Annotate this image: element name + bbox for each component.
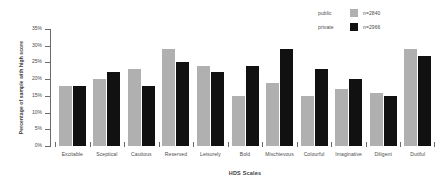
y-axis-tick: 0% xyxy=(45,146,51,147)
bar-private xyxy=(211,72,224,146)
y-axis-tick: 35% xyxy=(45,29,51,30)
x-axis-title: HDS Scales xyxy=(55,170,435,176)
x-axis-tick-label: Mischievous xyxy=(262,151,297,157)
bar-public xyxy=(370,93,383,146)
legend-item-public: public n=2840 xyxy=(318,7,438,18)
bar-private xyxy=(246,66,259,146)
bar-private xyxy=(107,72,120,146)
bar-group xyxy=(90,29,125,146)
y-axis-tick-label: 20% xyxy=(32,75,42,81)
y-axis-title: Percentage of sample with high score xyxy=(18,29,28,146)
x-axis-tick-label: Sceptical xyxy=(90,151,125,157)
bar-private xyxy=(315,69,328,146)
bar-group xyxy=(159,29,194,146)
bar-public xyxy=(128,69,141,146)
x-axis-group-separator xyxy=(297,142,298,147)
bar-private xyxy=(176,62,189,146)
legend-swatch-public-icon xyxy=(350,9,358,17)
bar-public xyxy=(59,86,72,146)
plot-area: 0%5%10%15%20%25%30%35% xyxy=(55,29,435,146)
x-axis-group-separator xyxy=(90,142,91,147)
y-axis-tick-label: 5% xyxy=(35,125,42,131)
x-axis-tick-label: Reserved xyxy=(159,151,194,157)
x-axis-tick-label: Colourful xyxy=(297,151,332,157)
legend-n-public: n=2840 xyxy=(363,10,380,16)
x-axis-group-separator xyxy=(159,142,160,147)
bar-private xyxy=(418,56,431,146)
y-axis-tick: 20% xyxy=(45,79,51,80)
bar-group xyxy=(400,29,435,146)
x-axis-group-separator xyxy=(331,142,332,147)
x-axis-group-separator xyxy=(434,142,435,147)
bar-public xyxy=(197,66,210,146)
bar-group xyxy=(331,29,366,146)
x-axis-group-separator xyxy=(366,142,367,147)
y-axis-tick-label: 30% xyxy=(32,42,42,48)
y-axis-tick-label: 25% xyxy=(32,58,42,64)
legend-label-public: public xyxy=(318,10,348,16)
bar-private xyxy=(349,79,362,146)
bar-public xyxy=(162,49,175,146)
x-axis-tick-label: Leisurely xyxy=(193,151,228,157)
bar-group xyxy=(124,29,159,146)
y-axis-tick-label: 35% xyxy=(32,25,42,31)
bar-group xyxy=(228,29,263,146)
bar-public xyxy=(266,83,279,147)
x-axis-group-separator xyxy=(55,142,56,147)
bar-public xyxy=(93,79,106,146)
bar-private xyxy=(280,49,293,146)
bar-chart: public n=2840 private n=2966 Percentage … xyxy=(0,0,445,190)
bar-group xyxy=(193,29,228,146)
y-axis-tick-label: 0% xyxy=(35,142,42,148)
y-axis-tick-label: 10% xyxy=(32,109,42,115)
bar-public xyxy=(335,89,348,146)
y-axis-tick: 30% xyxy=(45,46,51,47)
bar-public xyxy=(232,96,245,146)
bar-private xyxy=(73,86,86,146)
y-axis-tick: 25% xyxy=(45,62,51,63)
y-axis-tick: 5% xyxy=(45,129,51,130)
x-axis-group-separator xyxy=(193,142,194,147)
bar-group xyxy=(55,29,90,146)
x-axis-group-separator xyxy=(124,142,125,147)
bar-group xyxy=(366,29,401,146)
x-axis-tick-label: Diligent xyxy=(366,151,401,157)
x-axis-group-separator xyxy=(262,142,263,147)
y-axis-tick: 15% xyxy=(45,96,51,97)
x-axis-group-separator xyxy=(400,142,401,147)
bar-group xyxy=(297,29,332,146)
bar-public xyxy=(404,49,417,146)
bar-private xyxy=(142,86,155,146)
x-axis-tick-label: Imaginative xyxy=(331,151,366,157)
bar-group xyxy=(262,29,297,146)
x-axis-tick-label: Cautious xyxy=(124,151,159,157)
x-axis-tick-label: Bold xyxy=(228,151,263,157)
x-axis-tick-labels: ExcitableScepticalCautiousReservedLeisur… xyxy=(55,151,435,157)
bar-groups xyxy=(55,29,435,146)
x-axis-group-separator xyxy=(228,142,229,147)
y-axis-tick: 10% xyxy=(45,113,51,114)
y-axis-tick-label: 15% xyxy=(32,92,42,98)
bar-public xyxy=(301,96,314,146)
x-axis-tick-label: Dutiful xyxy=(400,151,435,157)
bar-private xyxy=(384,96,397,146)
x-axis-tick-label: Excitable xyxy=(55,151,90,157)
